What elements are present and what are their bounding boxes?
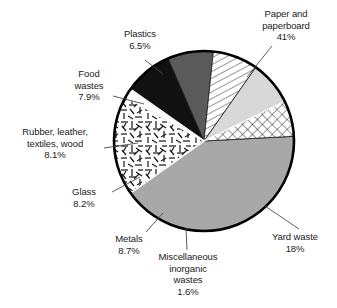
slice-label-plastics: Plastics 6.5%	[104, 28, 176, 51]
leader-line-yard	[265, 206, 299, 229]
slice-label-glass: Glass 8.2%	[55, 186, 113, 209]
slice-label-rubber-leather-textiles-wood: Rubber, leather, textiles, wood 8.1%	[5, 126, 105, 161]
slice-label-food-wastes: Food wastes 7.9%	[58, 68, 120, 103]
leader-line-misc	[186, 228, 187, 250]
pie-chart-figure: Paper and paperboard 41% Plastics 6.5% F…	[0, 0, 337, 308]
slice-label-yard-waste: Yard waste 18%	[255, 231, 335, 254]
slice-label-paper-and-paperboard: Paper and paperboard 41%	[237, 8, 335, 43]
slice-label-miscellaneous-inorganic-wastes: Miscellaneous inorganic wastes 1.6%	[148, 251, 228, 297]
